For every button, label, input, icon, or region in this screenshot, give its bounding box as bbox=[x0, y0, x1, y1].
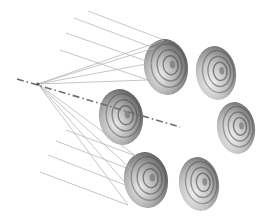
disc-middle-left bbox=[95, 86, 146, 148]
diagram-canvas bbox=[0, 0, 267, 219]
incident-ray bbox=[48, 155, 128, 186]
disc-middle-right bbox=[214, 100, 259, 157]
disc-body bbox=[120, 149, 171, 211]
disc-bottom-right bbox=[175, 154, 222, 213]
incident-ray bbox=[66, 33, 152, 63]
disc-body bbox=[192, 43, 239, 102]
disc-bottom-left bbox=[120, 149, 171, 211]
incident-ray bbox=[56, 141, 132, 170]
incident-ray bbox=[60, 50, 148, 80]
disc-body bbox=[95, 86, 146, 148]
incident-ray bbox=[74, 18, 154, 48]
disc-body bbox=[214, 100, 259, 157]
focal-point-icon bbox=[36, 82, 39, 85]
incident-ray bbox=[40, 172, 128, 205]
disc-body bbox=[175, 154, 222, 213]
optics-diagram bbox=[0, 0, 267, 219]
incident-ray bbox=[88, 11, 164, 40]
disc-top-right bbox=[192, 43, 239, 102]
disc-array bbox=[95, 36, 258, 213]
